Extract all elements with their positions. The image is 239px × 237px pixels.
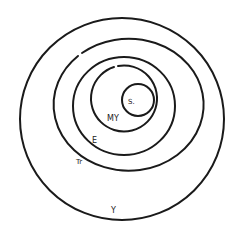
label-e: E bbox=[92, 136, 97, 145]
ring-s bbox=[122, 84, 154, 116]
label-tr: Tr bbox=[75, 158, 82, 166]
concentric-rings-diagram: S. MY E Tr Y bbox=[0, 0, 239, 237]
label-s: S. bbox=[128, 98, 135, 106]
label-my: MY bbox=[107, 114, 119, 123]
ring-y bbox=[20, 18, 224, 220]
label-y: Y bbox=[110, 206, 116, 215]
ring-my bbox=[91, 65, 157, 131]
